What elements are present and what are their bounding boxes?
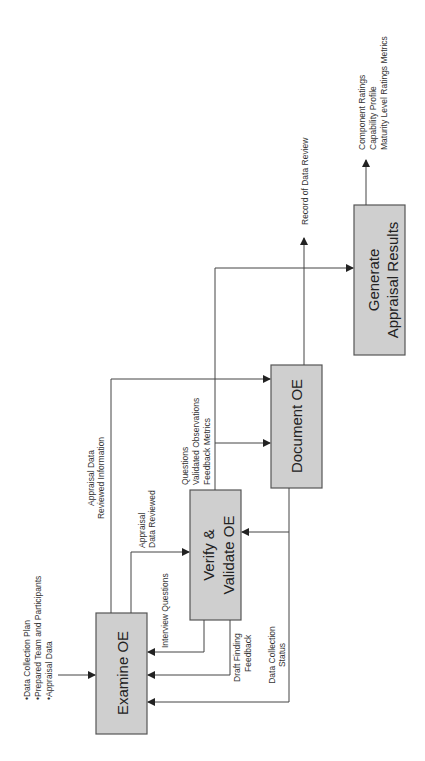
examine-oe-box: Examine OE [96, 613, 147, 734]
validated-observations-arrow [215, 443, 270, 490]
verify-validate-oe-box: Verify & Validate OE [190, 490, 241, 620]
process-diagram: Examine OE Verify & Validate OE Document… [0, 0, 425, 761]
examine-oe-label: Examine OE [114, 631, 131, 715]
svg-text:Feedback Metrics: Feedback Metrics [202, 418, 212, 485]
svg-text:•Prepared Team and Participant: •Prepared Team and Participants [33, 576, 43, 700]
interview-questions-arrow [148, 620, 204, 652]
generate-label-line1: Generate [365, 249, 382, 312]
svg-text:Feedback: Feedback [243, 634, 253, 672]
svg-text:Reviewed Information: Reviewed Information [96, 437, 106, 519]
svg-text:Data Reviewed: Data Reviewed [147, 490, 157, 548]
svg-text:Appraisal Data: Appraisal Data [86, 450, 96, 506]
svg-text:Component Ratings: Component Ratings [357, 75, 367, 150]
svg-text:Capability Profile: Capability Profile [368, 86, 378, 150]
svg-text:Questions: Questions [180, 447, 190, 485]
svg-text:Appraisal: Appraisal [137, 512, 147, 548]
input-labels: •Data Collection Plan •Prepared Team and… [22, 576, 54, 700]
verify-label-line1: Verify & [200, 529, 217, 581]
document-oe-label: Document OE [288, 379, 305, 473]
svg-text:Status: Status [277, 643, 287, 667]
verify-label-line2: Validate OE [220, 516, 237, 595]
svg-text:•Appraisal Data: •Appraisal Data [44, 641, 54, 700]
svg-text:Interview Questions: Interview Questions [160, 573, 170, 648]
generate-appraisal-results-box: Generate Appraisal Results [354, 205, 405, 355]
svg-text:Draft Finding: Draft Finding [232, 633, 242, 682]
svg-text:Record of Data Review: Record of Data Review [300, 137, 310, 225]
document-oe-box: Document OE [271, 365, 322, 488]
generate-label-line2: Appraisal Results [384, 222, 401, 339]
svg-text:Validated Observations: Validated Observations [191, 398, 201, 485]
svg-text:•Data Collection Plan: •Data Collection Plan [22, 620, 32, 700]
svg-text:Maturity Level Ratings Metrics: Maturity Level Ratings Metrics [379, 36, 389, 150]
svg-text:Data Collection: Data Collection [267, 626, 277, 684]
